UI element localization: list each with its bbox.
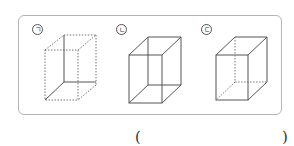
cube-nieun: [129, 37, 181, 103]
cube-giyeok: [45, 35, 96, 100]
answer-close-paren: ): [282, 128, 288, 146]
cube-figures: [0, 0, 294, 146]
cube-digeut: [216, 37, 267, 100]
answer-open-paren: (: [135, 128, 141, 146]
